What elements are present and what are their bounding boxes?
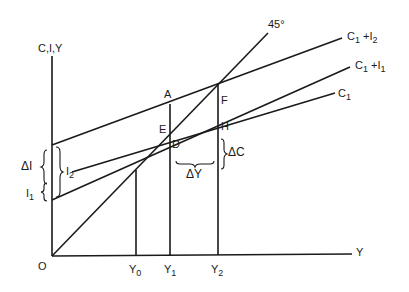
origin-label: O	[38, 261, 47, 272]
i2-label: I2	[66, 166, 74, 180]
tick-y1: Y1	[164, 264, 176, 278]
point-d-label: D	[172, 139, 180, 150]
x-axis	[52, 254, 352, 256]
tick-y2: Y2	[211, 264, 223, 278]
point-a-label: A	[164, 89, 171, 100]
label-45-degree: 45°	[268, 19, 285, 30]
delta-y-label: ΔY	[186, 168, 202, 180]
y-axis-label: C,I,Y	[38, 43, 62, 54]
brace-i2-span	[56, 147, 63, 197]
x-axis-label: Y	[356, 247, 363, 258]
i1-brace	[41, 183, 47, 201]
label-c1-plus-i1: C1 +I1	[355, 60, 386, 74]
point-f-label: F	[221, 95, 228, 106]
point-h-label: H	[221, 121, 229, 132]
line-c1	[72, 93, 335, 172]
tick-y0: Y0	[129, 264, 141, 278]
delta-c-brace	[221, 139, 227, 169]
point-e-label: E	[159, 124, 166, 135]
line-c1-plus-i2	[52, 38, 342, 145]
delta-c-label: ΔC	[228, 146, 245, 158]
delta-i-brace	[41, 150, 47, 184]
label-c1: C1	[338, 88, 351, 102]
delta-i-label: ΔI	[21, 160, 32, 172]
label-c1-plus-i2: C1 +I2	[347, 31, 378, 45]
i1-label: I1	[26, 188, 34, 202]
